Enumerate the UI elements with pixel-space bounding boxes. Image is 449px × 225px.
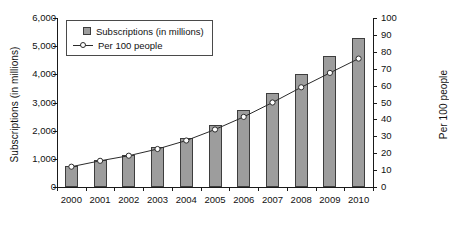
y-axis-right-tick (373, 18, 377, 19)
legend: Subscriptions (in millions) Per 100 peop… (66, 20, 213, 56)
y-axis-right-tick (373, 86, 377, 87)
y-axis-right-tick-label: 50 (381, 97, 392, 108)
y-axis-right-tick-label: 10 (381, 164, 392, 175)
y-axis-right-tick-label: 40 (381, 113, 392, 124)
y-axis-right-tick-label: 30 (381, 130, 392, 141)
y-axis-right-tick-label: 0 (381, 181, 386, 192)
x-axis-tick-label: 2010 (339, 194, 379, 205)
y-axis-right-tick (373, 136, 377, 137)
legend-item-subscriptions: Subscriptions (in millions) (73, 25, 204, 37)
line-marker (155, 146, 160, 151)
line-marker (184, 138, 189, 143)
line-marker (270, 100, 275, 105)
y-axis-right-tick (373, 119, 377, 120)
y-axis-left-tick-label: 3,000 (32, 97, 56, 108)
y-axis-left-tick-label: 0 (51, 181, 56, 192)
line-marker (356, 56, 361, 61)
y-axis-right-tick (373, 153, 377, 154)
legend-label-subscriptions: Subscriptions (in millions) (96, 26, 204, 37)
y-axis-right-tick (373, 69, 377, 70)
legend-item-per-100-people: Per 100 people (73, 39, 204, 51)
y-axis-right-tick (373, 170, 377, 171)
y-axis-right-tick-label: 100 (381, 12, 397, 23)
y-axis-right-tick-label: 60 (381, 80, 392, 91)
line-marker (241, 114, 246, 119)
y-axis-right-tick-label: 20 (381, 147, 392, 158)
y-axis-right-tick-label: 70 (381, 63, 392, 74)
y-axis-left-tick-label: 1,000 (32, 153, 56, 164)
line-marker (327, 70, 332, 75)
y-axis-right-tick (373, 35, 377, 36)
y-axis-right-tick (373, 103, 377, 104)
line-marker (98, 158, 103, 163)
line-marker (69, 164, 74, 169)
legend-label-per-100-people: Per 100 people (98, 40, 162, 51)
line-marker (212, 127, 217, 132)
line-marker (299, 85, 304, 90)
bar-swatch-icon (83, 27, 91, 35)
line-marker-swatch-icon (73, 41, 93, 49)
y-axis-right-title: Per 100 people (438, 30, 449, 180)
y-axis-left-tick-label: 2,000 (32, 125, 56, 136)
y-axis-left-title: Subscriptions (in millions) (9, 30, 20, 180)
y-axis-left-tick-label: 4,000 (32, 68, 56, 79)
y-axis-left-tick-label: 6,000 (32, 12, 56, 23)
line-markers (69, 56, 361, 169)
line-marker (126, 153, 131, 158)
line-path (71, 59, 358, 167)
y-axis-left-tick-label: 5,000 (32, 40, 56, 51)
y-axis-right-tick-label: 90 (381, 29, 392, 40)
x-axis-tick (373, 187, 374, 191)
y-axis-right-tick (373, 52, 377, 53)
y-axis-right-tick-label: 80 (381, 46, 392, 57)
